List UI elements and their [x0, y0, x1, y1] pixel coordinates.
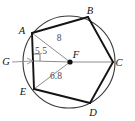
center-label-F: F: [72, 49, 80, 60]
label-leader-line-G: [12, 61, 33, 62]
point-label-G: G: [2, 56, 10, 67]
measure-label-radius: 6.8: [50, 71, 62, 81]
measure-label-side-AB: 8: [57, 33, 62, 43]
apothem-segment-FG: [33, 61, 70, 62]
vertex-label-B: B: [87, 5, 94, 16]
vertex-label-C: C: [115, 57, 123, 68]
polygon-side-DE: [34, 89, 90, 103]
vertex-label-E: E: [19, 86, 27, 97]
vertex-label-D: D: [88, 107, 97, 118]
polygon-side-AB: [32, 17, 88, 33]
polygon-side-CD: [90, 62, 113, 103]
center-point-F: [67, 59, 72, 64]
measure-label-apothem: 5.5: [35, 46, 47, 56]
vertex-label-A: A: [18, 25, 26, 36]
geometry-figure: A B C D E F G 8 5.5 6.8: [0, 0, 135, 121]
geometry-canvas: A B C D E F G 8 5.5 6.8: [0, 0, 135, 121]
